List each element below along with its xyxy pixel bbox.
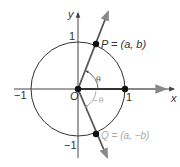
tick-label-y-neg-1: −1 [64, 139, 77, 151]
tick-label-x-neg-1: −1 [14, 89, 27, 101]
y-axis-label: y [67, 8, 75, 20]
tick-label-x-pos-1: 1 [126, 91, 132, 103]
tick-label-y-pos-1: 1 [69, 30, 75, 42]
terminal-ray-p [78, 12, 108, 89]
point-q-label: Q = (a, −b) [101, 130, 149, 141]
point-q [93, 131, 99, 137]
x-axis-label: x [170, 92, 177, 104]
point-p [93, 41, 99, 47]
angle-theta-label: θ [96, 75, 101, 84]
unit-circle-diagram: y x O 1 −1 1 −1 P = (a, b) Q = (a, −b) θ… [0, 0, 180, 167]
point-p-label: P = (a, b) [101, 38, 146, 50]
origin-label: O [70, 90, 79, 102]
angle-neg-theta-label: −θ [92, 96, 104, 105]
